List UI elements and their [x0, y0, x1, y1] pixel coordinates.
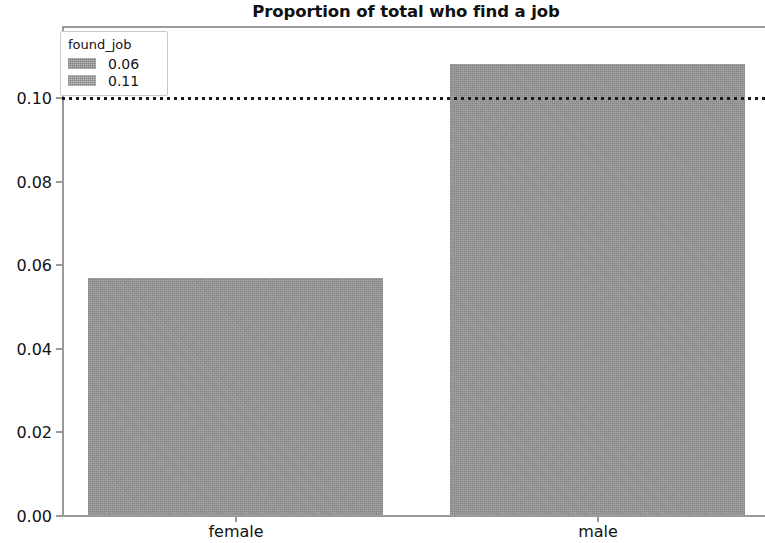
y-tick-label-4: 0.08	[16, 173, 52, 192]
y-tick-label-1: 0.02	[16, 423, 52, 442]
x-tick-label-female: female	[208, 522, 263, 541]
legend-swatch-icon	[68, 58, 96, 69]
y-tick-label-0: 0.00	[16, 507, 52, 526]
legend-item-label: 0.11	[108, 73, 139, 89]
bar-chart-figure: Proportion of total who find a job 0.00 …	[0, 0, 765, 543]
x-tick-label-male: male	[578, 522, 618, 541]
bar-male	[450, 64, 745, 515]
legend-item: 0.06	[68, 55, 160, 72]
plot-area	[62, 26, 765, 516]
y-tick-label-5: 0.10	[16, 89, 52, 108]
legend-swatch-icon	[68, 75, 96, 86]
plot-bottom-spine	[62, 515, 765, 517]
page-title: Proportion of total who find a job	[62, 2, 750, 21]
legend-item: 0.11	[68, 72, 160, 89]
legend-title: found_job	[68, 37, 160, 52]
legend: found_job 0.06 0.11	[60, 31, 168, 96]
y-tick-label-3: 0.06	[16, 256, 52, 275]
bar-female	[88, 278, 383, 515]
y-tick-label-2: 0.04	[16, 340, 52, 359]
reference-line-0.10	[62, 97, 765, 100]
plot-top-spine	[62, 26, 765, 28]
legend-item-label: 0.06	[108, 56, 139, 72]
